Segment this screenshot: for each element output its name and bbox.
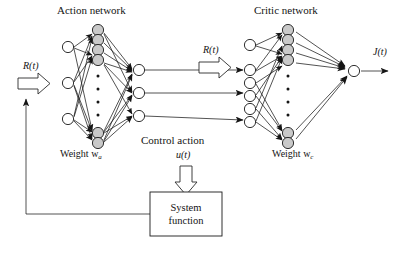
action-input-to-hidden-edges xyxy=(74,34,92,140)
critic-hidden-to-output-edges xyxy=(296,32,347,139)
system-function-line1: System xyxy=(150,201,222,214)
weight-critic-text: Weight w xyxy=(272,148,310,159)
action-to-critic-edges xyxy=(145,70,243,120)
action-output-nodes xyxy=(133,64,144,121)
action-hidden-ellipsis xyxy=(97,75,100,117)
control-action-signal-label: u(t) xyxy=(176,149,190,160)
reward-left-block-arrow xyxy=(18,73,50,94)
system-function-line2: function xyxy=(150,214,222,227)
action-hidden-to-output-edges xyxy=(104,33,132,142)
action-network-title: Action network xyxy=(57,4,126,16)
weight-critic-subscript: c xyxy=(310,153,313,161)
weight-action-label: Weight wa xyxy=(60,148,102,161)
system-function-box-label: System function xyxy=(150,201,222,227)
reward-right-block-arrow xyxy=(199,57,231,78)
reward-left-label: R(t) xyxy=(23,60,39,71)
critic-network-title: Critic network xyxy=(254,4,318,16)
output-signal-label: J(t) xyxy=(373,46,387,57)
action-hidden-nodes xyxy=(92,24,103,148)
weight-action-subscript: a xyxy=(98,153,102,161)
critic-output-node xyxy=(348,65,359,76)
weight-action-text: Weight w xyxy=(60,148,98,159)
control-action-label: Control action xyxy=(141,134,204,146)
critic-hidden-nodes xyxy=(282,24,293,148)
critic-input-to-hidden-edges xyxy=(256,33,282,140)
critic-input-nodes xyxy=(244,39,255,127)
action-input-nodes xyxy=(62,41,73,124)
reward-right-label: R(t) xyxy=(203,44,219,55)
control-action-block-arrow xyxy=(175,166,197,195)
critic-hidden-ellipsis xyxy=(287,75,290,117)
diagram-canvas: Action network Critic network R(t) R(t) … xyxy=(0,0,402,257)
weight-critic-label: Weight wc xyxy=(272,148,313,161)
